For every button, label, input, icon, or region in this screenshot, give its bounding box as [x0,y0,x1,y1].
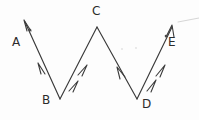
arrowhead-upper-b-to-c [78,65,87,76]
arrowhead-upper-d-to-e [156,65,165,77]
segment-c-to-d [97,27,137,99]
faint-speck-right [135,47,137,49]
vertex-label-d: D [142,98,151,110]
arrowhead-lower-d-to-e [147,80,156,92]
faint-speck-left [121,48,123,50]
vertex-label-a: A [12,36,20,48]
segment-b-to-a [25,22,60,99]
zigzag-path-drawing [0,0,199,120]
vertex-label-b: B [42,94,50,106]
segment-d-to-e [137,27,172,99]
dot-near-a [29,29,32,32]
faint-artifact-line [178,18,199,22]
segment-b-to-c [60,27,97,99]
figure-canvas: A B C D E [0,0,199,120]
arrowhead-lower-b-to-c [69,81,78,92]
vertex-label-c: C [92,5,100,17]
dot-near-e [165,35,168,38]
vertex-label-e: E [168,36,176,48]
arrowhead-mid-c-to-d [117,67,125,79]
